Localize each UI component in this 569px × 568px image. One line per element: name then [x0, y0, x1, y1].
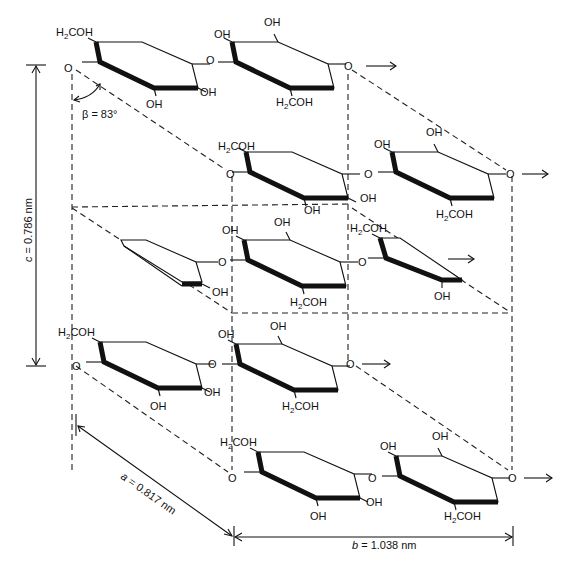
svg-text:OH: OH	[366, 496, 383, 508]
glucose-ring-bottom-right: OH OH H2COH	[380, 430, 510, 525]
chain-direction-arrow	[522, 170, 548, 178]
svg-text:OH: OH	[200, 86, 217, 98]
svg-text:OH: OH	[374, 138, 391, 150]
glycosidic-oxygen: O	[364, 168, 373, 180]
chain-direction-arrow	[362, 360, 390, 368]
chain-direction-arrow	[366, 62, 396, 70]
svg-text:OH: OH	[274, 216, 291, 228]
b-axis-dimension: b = 1.038 nm	[234, 526, 513, 551]
svg-text:H2COH: H2COH	[350, 222, 387, 237]
svg-text:OH: OH	[264, 16, 281, 28]
svg-text:O: O	[228, 472, 237, 484]
glucose-ring-top-left: H2COH O OH OH	[56, 26, 217, 110]
glycosidic-oxygen: O	[208, 358, 217, 370]
glucose-ring-top-right: OH OH H2COH	[214, 16, 346, 111]
svg-text:OH: OH	[222, 224, 239, 236]
glycosidic-oxygen: O	[358, 256, 367, 268]
svg-text:b = 1.038 nm: b = 1.038 nm	[352, 539, 417, 551]
glucose-ring-upper-mid-right: OH OH H2COH	[374, 126, 506, 223]
glucose-ring-center: OH OH H2COH	[222, 216, 358, 311]
svg-text:OH: OH	[432, 430, 449, 442]
svg-text:OH: OH	[212, 286, 229, 298]
beta-angle-marker: β = 83°	[74, 84, 118, 120]
svg-text:OH: OH	[380, 440, 397, 452]
svg-text:OH: OH	[310, 510, 327, 522]
glucose-ring-edge-on: OH	[121, 240, 229, 298]
svg-text:OH: OH	[214, 28, 231, 40]
svg-text:H2COH: H2COH	[444, 510, 481, 525]
glycosidic-oxygen: O	[368, 472, 377, 484]
svg-text:O: O	[64, 62, 73, 74]
svg-text:OH: OH	[150, 400, 167, 412]
glucose-ring-lower-mid: OH OH H2COH	[218, 320, 350, 415]
svg-text:O: O	[72, 360, 81, 372]
svg-text:H2COH: H2COH	[276, 96, 313, 111]
svg-text:OH: OH	[204, 386, 221, 398]
svg-text:OH: OH	[426, 126, 443, 138]
a-axis-dimension: a = 0.817 nm	[76, 414, 232, 536]
svg-text:OH: OH	[218, 328, 235, 340]
svg-text:OH: OH	[360, 192, 377, 204]
svg-text:OH: OH	[270, 320, 287, 332]
chain-end-oxygen: O	[506, 168, 515, 180]
svg-text:OH: OH	[304, 204, 321, 216]
svg-text:H2COH: H2COH	[290, 296, 327, 311]
svg-text:c = 0.786 nm: c = 0.786 nm	[22, 198, 34, 262]
svg-text:H2COH: H2COH	[58, 326, 95, 341]
c-axis-dimension: c = 0.786 nm	[22, 65, 46, 366]
svg-text:OH: OH	[434, 290, 451, 302]
svg-text:β = 83°: β = 83°	[82, 108, 118, 120]
glucose-ring-lower-left: H2COH O OH OH	[58, 326, 221, 412]
svg-text:H2COH: H2COH	[56, 26, 93, 41]
chain-direction-arrow	[524, 474, 552, 482]
glycosidic-oxygen: O	[218, 256, 227, 268]
chain-end-oxygen: O	[344, 60, 353, 72]
chain-end-oxygen: O	[508, 472, 517, 484]
svg-text:H2COH: H2COH	[436, 208, 473, 223]
glucose-ring-center-right: H2COH OH	[350, 222, 462, 302]
glucose-ring-bottom-left: H2COH O OH OH	[220, 436, 383, 522]
svg-text:H2COH: H2COH	[282, 400, 319, 415]
svg-text:OH: OH	[146, 98, 163, 110]
svg-text:O: O	[226, 168, 235, 180]
chain-direction-arrow	[448, 255, 474, 263]
cellulose-unit-cell-diagram: H2COH O OH OH O OH OH H2COH O H2COH O OH…	[0, 0, 569, 568]
chain-end-oxygen: O	[346, 358, 355, 370]
glycosidic-oxygen: O	[206, 54, 215, 66]
